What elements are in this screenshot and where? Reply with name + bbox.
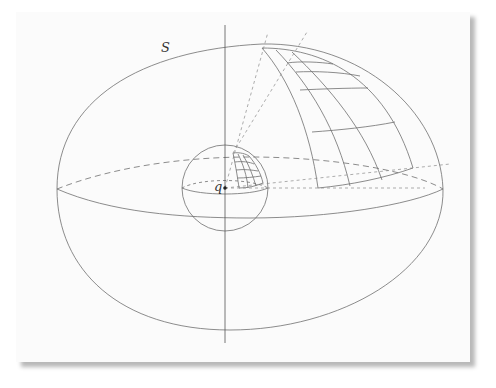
- label-q: q: [214, 179, 222, 194]
- equator-front: [57, 189, 443, 218]
- label-s: S: [161, 40, 170, 55]
- equator-back: [57, 157, 443, 189]
- sphere-grid-patch: [233, 153, 263, 188]
- surface-diagram: q S: [0, 0, 496, 388]
- projection-rays: [225, 32, 450, 188]
- point-q: [223, 186, 227, 190]
